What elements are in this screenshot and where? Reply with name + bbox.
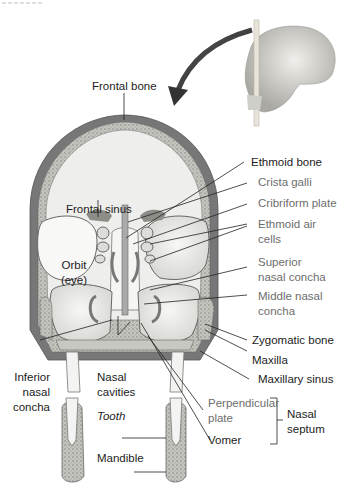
label-frontal-sinus: Frontal sinus (66, 203, 132, 216)
skull-coronal-diagram: Frontal bone Ethmoid bone Crista galli C… (0, 0, 347, 484)
palate (56, 340, 194, 350)
label-nasal-septum-2: septum (287, 423, 325, 436)
label-middle-nasal-concha-2: concha (258, 305, 295, 318)
label-mandible: Mandible (97, 452, 144, 465)
label-inferior-nasal-concha-2: nasal (4, 386, 50, 399)
label-inferior-nasal-concha-3: concha (4, 401, 50, 414)
label-inferior-nasal-concha-1: Inferior (4, 371, 50, 384)
label-ethmoid-air-cells-2: cells (258, 233, 281, 246)
label-zygomatic-bone: Zygomatic bone (252, 334, 334, 347)
label-cribriform-plate: Cribriform plate (258, 197, 337, 210)
label-frontal-bone: Frontal bone (92, 80, 157, 93)
label-nasal-septum-1: Nasal (287, 408, 316, 421)
label-middle-nasal-concha-1: Middle nasal (258, 290, 323, 303)
label-maxillary-sinus: Maxillary sinus (258, 373, 333, 386)
label-vomer: Vomer (208, 434, 241, 447)
label-crista-galli: Crista galli (258, 176, 312, 189)
label-perpendicular-plate-1: Perpendicular (208, 397, 279, 410)
label-ethmoid-bone: Ethmoid bone (251, 156, 322, 169)
label-nasal-cavities-1: Nasal (97, 371, 126, 384)
label-orbit-2: (eye) (54, 274, 94, 287)
lateral-skull-icon (245, 20, 335, 126)
label-nasal-cavities-2: cavities (97, 386, 135, 399)
section-arrow-icon (168, 30, 252, 106)
label-ethmoid-air-cells-1: Ethmoid air (258, 218, 316, 231)
label-maxilla: Maxilla (252, 354, 288, 367)
label-superior-nasal-concha-2: nasal concha (258, 271, 326, 284)
label-perpendicular-plate-2: plate (208, 412, 233, 425)
label-superior-nasal-concha-1: Superior (258, 256, 301, 269)
label-tooth: Tooth (97, 410, 125, 423)
label-orbit-1: Orbit (54, 259, 94, 272)
